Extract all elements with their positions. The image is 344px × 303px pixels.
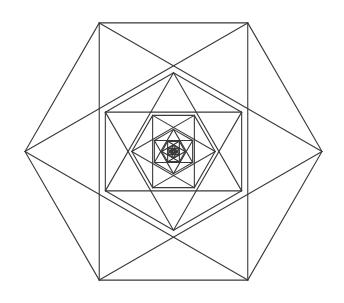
recursive-hexagon-star-fractal (0, 0, 344, 303)
figure-canvas (0, 0, 344, 303)
